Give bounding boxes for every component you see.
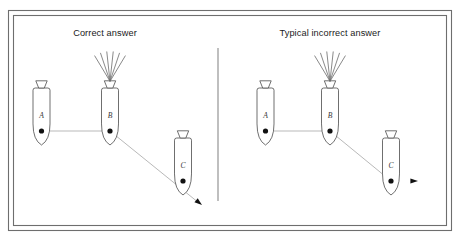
panel-title-incorrect: Typical incorrect answer <box>280 28 381 38</box>
ship-position-dot-c-incorrect <box>388 178 393 183</box>
panel-title-correct: Correct answer <box>73 28 137 38</box>
ship-position-dot-a-incorrect <box>263 128 268 133</box>
ship-position-dot-b-incorrect <box>327 128 332 133</box>
ship-label-a-correct: A <box>38 111 44 120</box>
ship-position-dot-a-correct <box>39 128 44 133</box>
ship-label-b-correct: B <box>108 111 113 120</box>
ship-label-a-incorrect: A <box>262 111 268 120</box>
ship-position-dot-c-correct <box>180 178 185 183</box>
canvas-background <box>0 0 459 240</box>
figure-root: Correct answer Typical incorrect answer … <box>0 0 459 240</box>
comparison-diagram: Correct answer Typical incorrect answer … <box>0 0 459 240</box>
ship-label-b-incorrect: B <box>328 111 333 120</box>
ship-position-dot-b-correct <box>107 128 112 133</box>
